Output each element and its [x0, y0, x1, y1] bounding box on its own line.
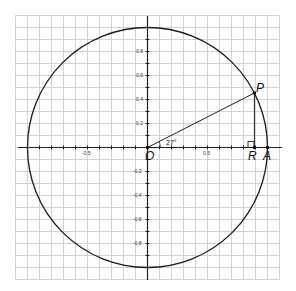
y-tick-label-0.2: 0.2 — [136, 120, 143, 126]
label-o: O — [145, 149, 154, 163]
y-tick-label-neg-0.4: -0.4 — [133, 192, 142, 198]
radius-op — [148, 93, 255, 148]
unit-circle-diagram: O P R A 27° -0.5 0.5 0.8 0.6 0.4 0.2 -0.… — [0, 0, 296, 291]
y-tick-label-neg-0.8: -0.8 — [133, 240, 142, 246]
y-tick-label-0.8: 0.8 — [136, 48, 143, 54]
x-tick-label-neg-0.5: -0.5 — [82, 150, 91, 156]
y-tick-label-0.6: 0.6 — [136, 72, 143, 78]
x-tick-label-0.5: 0.5 — [203, 150, 210, 156]
label-r: R — [248, 149, 257, 163]
y-tick-label-0.4: 0.4 — [136, 96, 143, 102]
label-a: A — [262, 149, 271, 163]
y-tick-label-neg-0.6: -0.6 — [133, 216, 142, 222]
label-p: P — [256, 81, 264, 95]
angle-label: 27° — [166, 139, 177, 146]
y-tick-label-neg-0.2: -0.2 — [133, 168, 142, 174]
